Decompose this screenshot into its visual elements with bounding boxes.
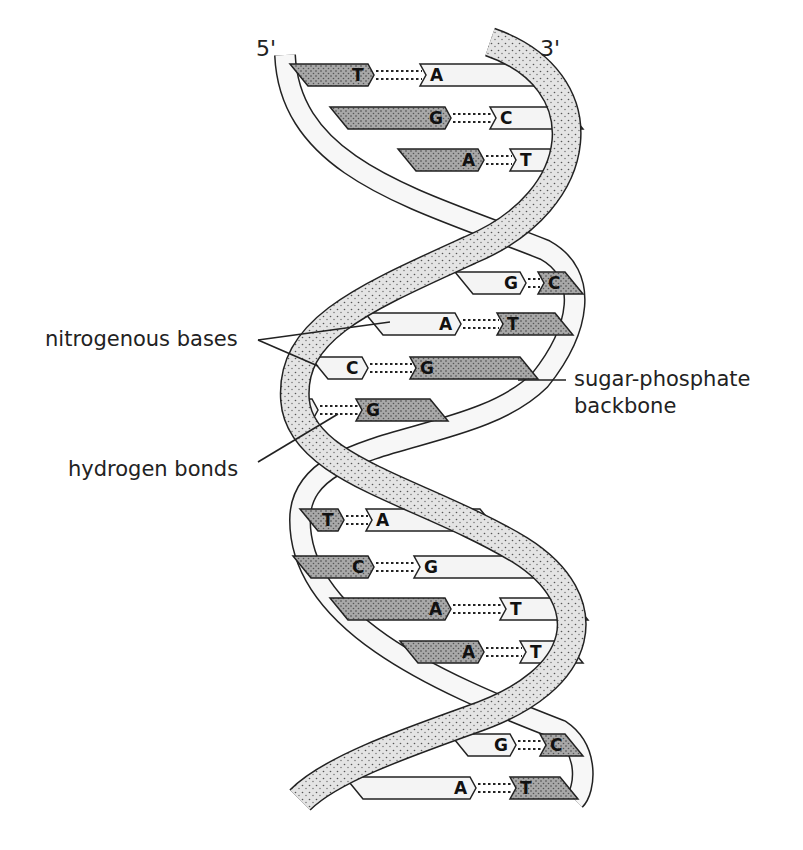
sugar-phosphate-label-line2: backbone — [574, 394, 676, 418]
base-letter: C — [550, 735, 562, 755]
base-letter: T — [352, 65, 364, 85]
nitrogenous-base — [310, 357, 368, 379]
base-pair: AT — [398, 149, 568, 171]
base-pair: GC — [450, 734, 583, 756]
base-letter: A — [439, 314, 453, 334]
base-letter: C — [352, 557, 364, 577]
dna-diagram: TAGCATGCATCGCGTACGATATGCAT 5' 3' nitroge… — [0, 0, 803, 850]
base-letter: G — [504, 273, 518, 293]
base-letter: T — [507, 314, 519, 334]
base-letter: A — [429, 599, 443, 619]
three-prime-label: 3' — [540, 36, 560, 61]
base-letter: C — [346, 358, 358, 378]
base-letter: T — [322, 510, 334, 530]
base-letter: C — [500, 108, 512, 128]
base-pair: GC — [330, 107, 583, 129]
base-letter: G — [424, 557, 438, 577]
base-letter: A — [462, 642, 476, 662]
base-letter: T — [520, 150, 532, 170]
sugar-phosphate-label-line1: sugar-phosphate — [574, 367, 750, 391]
base-pair: GC — [455, 272, 583, 294]
base-letter: A — [430, 65, 444, 85]
five-prime-label: 5' — [256, 36, 276, 61]
base-letter: A — [454, 778, 468, 798]
base-letter: A — [376, 510, 390, 530]
base-letter: G — [494, 735, 508, 755]
base-pair: AT — [345, 777, 578, 799]
base-letter: G — [366, 400, 380, 420]
base-letter: C — [548, 273, 560, 293]
hydrogen-bonds-label: hydrogen bonds — [68, 457, 238, 481]
base-letter: T — [530, 642, 542, 662]
base-letter: G — [420, 358, 434, 378]
base-letter: G — [429, 108, 443, 128]
base-letter: A — [462, 150, 476, 170]
base-letter: T — [520, 778, 532, 798]
nitrogenous-bases-label: nitrogenous bases — [45, 327, 238, 351]
base-pair: AT — [365, 313, 573, 335]
base-pair: CG — [310, 357, 538, 379]
base-pair: AT — [330, 598, 588, 620]
base-letter: T — [510, 599, 522, 619]
